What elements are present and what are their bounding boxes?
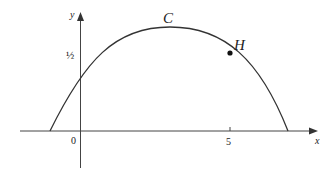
x-axis-arrow-icon	[309, 128, 318, 135]
y-axis	[77, 12, 84, 168]
x-axis-label: x	[314, 135, 320, 146]
y-tick-half-label: ½	[66, 49, 74, 61]
graph-figure: y x 0 5 ½ C H	[0, 0, 333, 177]
x-tick-5-label: 5	[226, 136, 231, 147]
origin-label: 0	[71, 135, 76, 146]
y-axis-arrow-icon	[77, 12, 84, 21]
curve-c-label: C	[163, 10, 174, 26]
point-h-label: H	[233, 37, 246, 53]
x-axis	[20, 128, 318, 135]
curve-c	[50, 27, 288, 131]
y-axis-label: y	[69, 9, 75, 20]
point-h-marker	[227, 50, 232, 55]
